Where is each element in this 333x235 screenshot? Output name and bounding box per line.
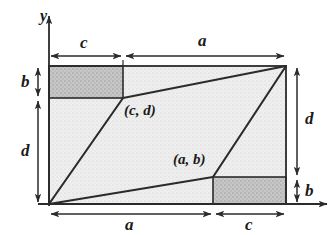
top-left-corner-rect (49, 66, 123, 98)
parallelogram-determinant-figure: y c a b d d b a c (c, d) (a, b) (0, 0, 333, 235)
bottom-right-corner-rect (213, 177, 286, 204)
dim-label-top-a: a (198, 32, 207, 49)
figure-canvas (0, 0, 333, 235)
point-label-cd: (c, d) (124, 103, 156, 118)
dim-label-left-d: d (21, 142, 30, 159)
dim-label-bottom-c: c (245, 216, 253, 233)
y-axis-label: y (40, 8, 47, 24)
dim-label-right-b: b (305, 182, 314, 199)
dim-label-top-c: c (80, 34, 88, 51)
point-label-ab: (a, b) (173, 152, 206, 167)
dim-label-right-d: d (305, 110, 314, 127)
dim-label-bottom-a: a (125, 216, 134, 233)
dim-label-left-b: b (21, 73, 30, 90)
